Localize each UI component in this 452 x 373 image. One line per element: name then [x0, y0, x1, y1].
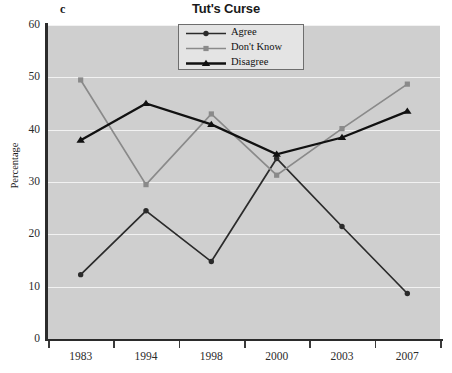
- x-tick-label: 2000: [247, 350, 307, 362]
- series-disagree: [76, 100, 411, 157]
- legend-swatch-square: [185, 42, 227, 55]
- data-point-marker: [405, 291, 410, 296]
- series-line: [81, 158, 408, 293]
- data-point-marker: [142, 100, 150, 106]
- x-axis-tick: [48, 341, 50, 348]
- y-tick-label: 60: [6, 18, 40, 30]
- data-point-marker: [143, 208, 148, 213]
- chart-title: Tut's Curse: [0, 1, 452, 16]
- series-line: [81, 80, 408, 185]
- data-point-marker: [78, 77, 83, 82]
- chart-figure: c Tut's Curse Percentage 0102030405060 1…: [0, 0, 452, 373]
- x-axis-tick: [375, 341, 377, 348]
- data-point-marker: [274, 173, 279, 178]
- y-tick-label: 10: [6, 280, 40, 292]
- x-tick-label: 1983: [51, 350, 111, 362]
- data-point-marker: [78, 272, 83, 277]
- series-layer: [48, 25, 440, 339]
- data-point-marker: [203, 31, 208, 36]
- x-tick-label: 2007: [377, 350, 437, 362]
- legend-swatch-circle: [185, 27, 227, 40]
- x-axis-tick: [179, 341, 181, 348]
- series-line: [81, 104, 408, 155]
- series-agree: [78, 156, 410, 296]
- y-tick-label: 50: [6, 70, 40, 82]
- legend: AgreeDon't KnowDisagree: [178, 24, 304, 70]
- x-tick-label: 1998: [181, 350, 241, 362]
- y-tick-label: 30: [6, 175, 40, 187]
- data-point-marker: [209, 259, 214, 264]
- legend-item-disagree[interactable]: Disagree: [179, 57, 303, 70]
- data-point-marker: [209, 111, 214, 116]
- legend-item-agree[interactable]: Agree: [179, 27, 303, 40]
- plot-area: [48, 25, 440, 339]
- series-don-t-know: [78, 77, 410, 187]
- data-point-marker: [339, 224, 344, 229]
- x-tick-label: 2003: [312, 350, 372, 362]
- data-point-marker: [403, 108, 411, 114]
- legend-swatch-triangle: [185, 57, 227, 70]
- legend-label: Don't Know: [231, 41, 282, 52]
- x-axis-tick: [309, 341, 311, 348]
- legend-label: Agree: [231, 26, 257, 37]
- y-tick-label: 20: [6, 227, 40, 239]
- legend-label: Disagree: [231, 56, 268, 67]
- legend-item-don-t-know[interactable]: Don't Know: [179, 42, 303, 55]
- data-point-marker: [405, 82, 410, 87]
- y-tick-label: 0: [6, 332, 40, 344]
- x-axis-tick: [440, 341, 442, 348]
- x-axis-tick: [244, 341, 246, 348]
- data-point-marker: [339, 126, 344, 131]
- data-point-marker: [143, 182, 148, 187]
- y-tick-label: 40: [6, 123, 40, 135]
- data-point-marker: [203, 46, 208, 51]
- x-tick-label: 1994: [116, 350, 176, 362]
- x-axis-tick: [113, 341, 115, 348]
